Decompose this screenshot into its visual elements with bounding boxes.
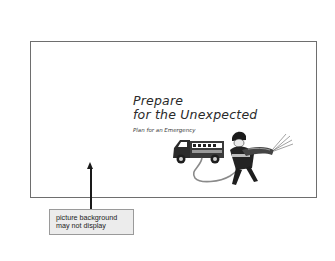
fire-truck-icon (173, 140, 224, 164)
slide-title-line-2: for the Unexpected (133, 108, 257, 122)
callout-arrow-line (90, 167, 92, 210)
firefighter-icon (230, 132, 293, 185)
fire-truck-firefighter-illustration (170, 128, 295, 190)
slide-title: Prepare for the Unexpected (133, 94, 257, 122)
callout-note: picture background may not display (49, 209, 134, 235)
callout-line-2: may not display (56, 222, 133, 230)
slide-title-line-1: Prepare (133, 94, 257, 108)
